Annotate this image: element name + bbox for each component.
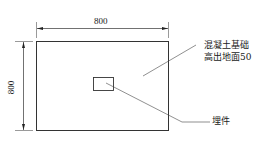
embedded-part-outline — [94, 78, 114, 91]
height-dimension-label: 800 — [7, 81, 16, 95]
arrow-up-icon — [22, 42, 25, 48]
concrete-leader-line — [143, 45, 196, 76]
arrow-left-icon — [37, 27, 43, 30]
embedded-part-callout: 埋件 — [212, 117, 230, 126]
concrete-callout-line1: 混凝土基础 — [204, 39, 251, 51]
embed-leader-line — [106, 83, 210, 122]
concrete-foundation-outline — [37, 42, 169, 131]
width-dimension-label: 800 — [94, 17, 108, 26]
arrow-down-icon — [22, 124, 25, 130]
concrete-callout-line2: 高出地面50 — [204, 51, 251, 63]
concrete-foundation-callout: 混凝土基础 高出地面50 — [204, 39, 251, 63]
arrow-right-icon — [162, 27, 168, 30]
